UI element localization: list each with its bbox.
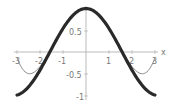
x-tick-label: -1	[58, 57, 66, 66]
x-axis-label: x	[161, 48, 166, 57]
y-tick-label: 0.5	[69, 28, 82, 37]
cosine-taylor-chart: -3 -2 -1 1 2 3 x 0.5 -0.5 -1	[0, 0, 173, 106]
x-tick-label: 1	[106, 57, 111, 66]
y-tick-label: -1	[76, 93, 84, 102]
y-tick-label: -0.5	[66, 71, 82, 80]
